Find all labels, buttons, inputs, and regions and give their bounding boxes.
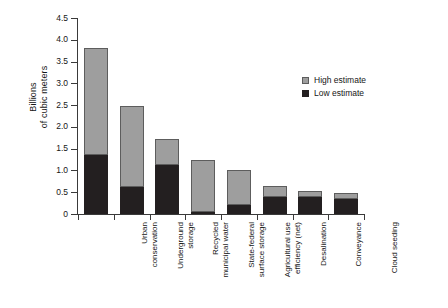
- bar-segment-high-estimate: [155, 139, 179, 166]
- y-axis-tick-label: 3.0: [28, 79, 68, 88]
- plot-area: [78, 18, 364, 214]
- y-axis-tick-label: 2.5: [28, 101, 68, 110]
- y-axis-tick-label: 0.5: [28, 188, 68, 197]
- x-axis-tick: [293, 215, 294, 220]
- bar-segment-low-estimate: [263, 197, 287, 214]
- x-axis-category-label: Urban conservation: [140, 222, 159, 308]
- y-axis-tick-label: 3.5: [28, 57, 68, 66]
- legend-item-label: High estimate: [314, 74, 366, 87]
- bar-segment-low-estimate: [120, 187, 144, 214]
- bar-segment-high-estimate: [227, 170, 251, 206]
- bar-segment-low-estimate: [298, 197, 322, 214]
- y-axis-tick: [71, 149, 77, 150]
- x-axis-tick: [257, 215, 258, 220]
- x-axis-tick: [221, 215, 222, 220]
- legend-item: Low estimate: [302, 87, 366, 100]
- y-axis-tick: [71, 18, 77, 19]
- y-axis-tick-label: 0: [28, 210, 68, 219]
- y-axis-tick-label: 2.0: [28, 122, 68, 131]
- legend-item: High estimate: [302, 74, 366, 87]
- bar-segment-high-estimate: [191, 160, 215, 212]
- water-supply-stacked-bar-chart: Billions of cubic meters 00.51.01.52.02.…: [0, 0, 448, 308]
- x-axis-category-label: Recycled municipal water: [211, 222, 230, 308]
- x-axis-tick: [328, 215, 329, 220]
- y-axis-tick: [71, 105, 77, 106]
- y-axis-tick: [71, 214, 77, 215]
- x-axis-tick: [364, 215, 365, 220]
- bar-segment-low-estimate: [191, 212, 215, 214]
- bar-segment-high-estimate: [84, 48, 108, 156]
- x-axis-category-label: Conveyance: [354, 222, 364, 308]
- y-axis-tick-label: 4.0: [28, 35, 68, 44]
- x-axis-category-label: State-federal surface storage: [247, 222, 266, 308]
- x-axis-tick: [78, 215, 79, 220]
- legend-swatch-icon: [302, 90, 309, 97]
- y-axis-tick-label: 4.5: [28, 14, 68, 23]
- y-axis-tick: [71, 40, 77, 41]
- bar-segment-low-estimate: [155, 165, 179, 214]
- x-axis-tick: [185, 215, 186, 220]
- y-axis-tick-label: 1.0: [28, 166, 68, 175]
- x-axis-category-label: Desalination: [319, 222, 329, 308]
- bar-segment-high-estimate: [120, 106, 144, 187]
- y-axis-tick: [71, 83, 77, 84]
- x-axis-tick: [114, 215, 115, 220]
- bar-segment-high-estimate: [263, 186, 287, 196]
- x-axis-category-label: Underground storage: [176, 222, 195, 308]
- y-axis-tick: [71, 62, 77, 63]
- legend-item-label: Low estimate: [314, 87, 364, 100]
- bar-segment-low-estimate: [84, 155, 108, 214]
- bar-segment-low-estimate: [334, 199, 358, 214]
- bar-segment-low-estimate: [227, 205, 251, 214]
- legend-swatch-icon: [302, 77, 309, 84]
- chart-legend: High estimateLow estimate: [302, 74, 366, 100]
- y-axis-tick: [71, 127, 77, 128]
- y-axis-tick: [71, 192, 77, 193]
- y-axis-tick: [71, 170, 77, 171]
- x-axis-category-label: Agricultural use efficiency (net): [283, 222, 302, 308]
- x-axis-category-label: Cloud seeding: [390, 222, 400, 308]
- y-axis-tick-label: 1.5: [28, 144, 68, 153]
- x-axis-tick: [150, 215, 151, 220]
